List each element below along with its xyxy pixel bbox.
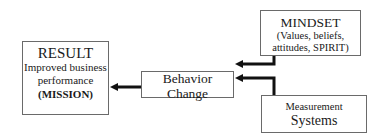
behavior-line1: Behavior (142, 71, 233, 86)
result-line2: performance (23, 74, 108, 87)
arrow-mindset-to-behavior (240, 56, 274, 64)
result-line1: Improved business (23, 61, 108, 74)
behavior-line2: Change (142, 86, 233, 101)
result-title: RESULT (23, 45, 108, 61)
arrowhead-icon (110, 83, 118, 91)
arrow-measurement-to-behavior (240, 78, 274, 95)
behavior-change-box: Behavior Change (141, 71, 234, 98)
result-line3: (MISSION) (23, 87, 108, 101)
arrowhead-icon (235, 60, 243, 68)
measurement-line1: Measurement (262, 101, 366, 113)
mindset-line2: attitudes, SPIRIT) (261, 42, 360, 54)
mindset-line1: (Values, beliefs, (261, 30, 360, 42)
mindset-title: MINDSET (261, 15, 360, 30)
arrowhead-icon (235, 74, 243, 82)
result-box: RESULT Improved business performance (MI… (22, 41, 109, 115)
measurement-line2: Systems (262, 113, 366, 129)
measurement-systems-box: Measurement Systems (261, 95, 367, 133)
mindset-box: MINDSET (Values, beliefs, attitudes, SPI… (260, 10, 361, 56)
